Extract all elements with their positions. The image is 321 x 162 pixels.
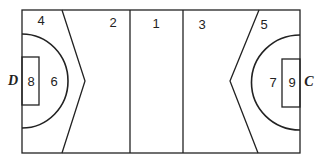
end-label-right: C <box>304 75 313 89</box>
zone-3-label: 3 <box>198 18 205 31</box>
zone-2-label: 2 <box>109 16 116 29</box>
zone-9-label: 9 <box>288 76 295 89</box>
end-label-left: D <box>8 74 18 88</box>
court-boundary <box>22 10 300 153</box>
zone-1-label: 1 <box>152 17 159 30</box>
zone-6-label: 6 <box>50 75 57 88</box>
right-zigzag-line <box>230 10 259 153</box>
zone-8-label: 8 <box>27 75 34 88</box>
zone-5-label: 5 <box>260 18 267 31</box>
zone-7-label: 7 <box>269 76 276 89</box>
left-zigzag-line <box>62 10 85 153</box>
zone-4-label: 4 <box>37 14 44 27</box>
